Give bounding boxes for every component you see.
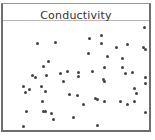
data-point <box>91 70 94 73</box>
data-point <box>52 118 55 121</box>
data-point <box>103 80 106 83</box>
data-point <box>100 34 103 37</box>
data-point <box>121 66 124 69</box>
data-point <box>77 71 80 74</box>
data-point <box>144 82 147 85</box>
data-point <box>28 88 31 91</box>
scatter-plot-area <box>0 0 155 140</box>
data-point <box>45 74 48 77</box>
data-point <box>144 111 147 114</box>
data-point <box>54 41 57 44</box>
data-point <box>66 70 69 73</box>
data-point <box>44 90 47 93</box>
data-point <box>124 72 127 75</box>
data-point <box>115 46 118 49</box>
data-point <box>31 74 34 77</box>
data-point <box>135 92 138 95</box>
data-point <box>133 100 136 103</box>
data-point <box>96 98 99 101</box>
data-point <box>131 71 134 74</box>
data-point <box>22 125 25 128</box>
data-point <box>88 37 91 40</box>
data-point <box>59 72 62 75</box>
data-point <box>133 87 136 90</box>
data-point <box>100 42 103 45</box>
data-point <box>96 124 99 127</box>
data-point <box>119 100 122 103</box>
data-point <box>50 112 53 115</box>
data-point <box>24 91 27 94</box>
data-point <box>144 48 147 51</box>
data-point <box>121 57 124 60</box>
data-point <box>44 110 47 113</box>
data-point <box>126 103 129 106</box>
data-point <box>87 52 90 55</box>
data-point <box>126 43 129 46</box>
data-point <box>106 55 109 58</box>
data-point <box>77 75 80 78</box>
data-point <box>25 110 28 113</box>
data-point <box>47 60 50 63</box>
data-point <box>82 103 85 106</box>
data-point <box>22 85 25 88</box>
data-point <box>62 80 65 83</box>
data-point <box>143 26 146 29</box>
data-point <box>103 100 106 103</box>
data-point <box>72 116 75 119</box>
data-point <box>40 85 43 88</box>
data-point <box>34 76 37 79</box>
data-point <box>68 93 71 96</box>
data-point <box>76 94 79 97</box>
data-point <box>144 76 147 79</box>
data-point <box>41 100 44 103</box>
data-point <box>103 66 106 69</box>
data-point <box>36 42 39 45</box>
data-point <box>42 65 45 68</box>
